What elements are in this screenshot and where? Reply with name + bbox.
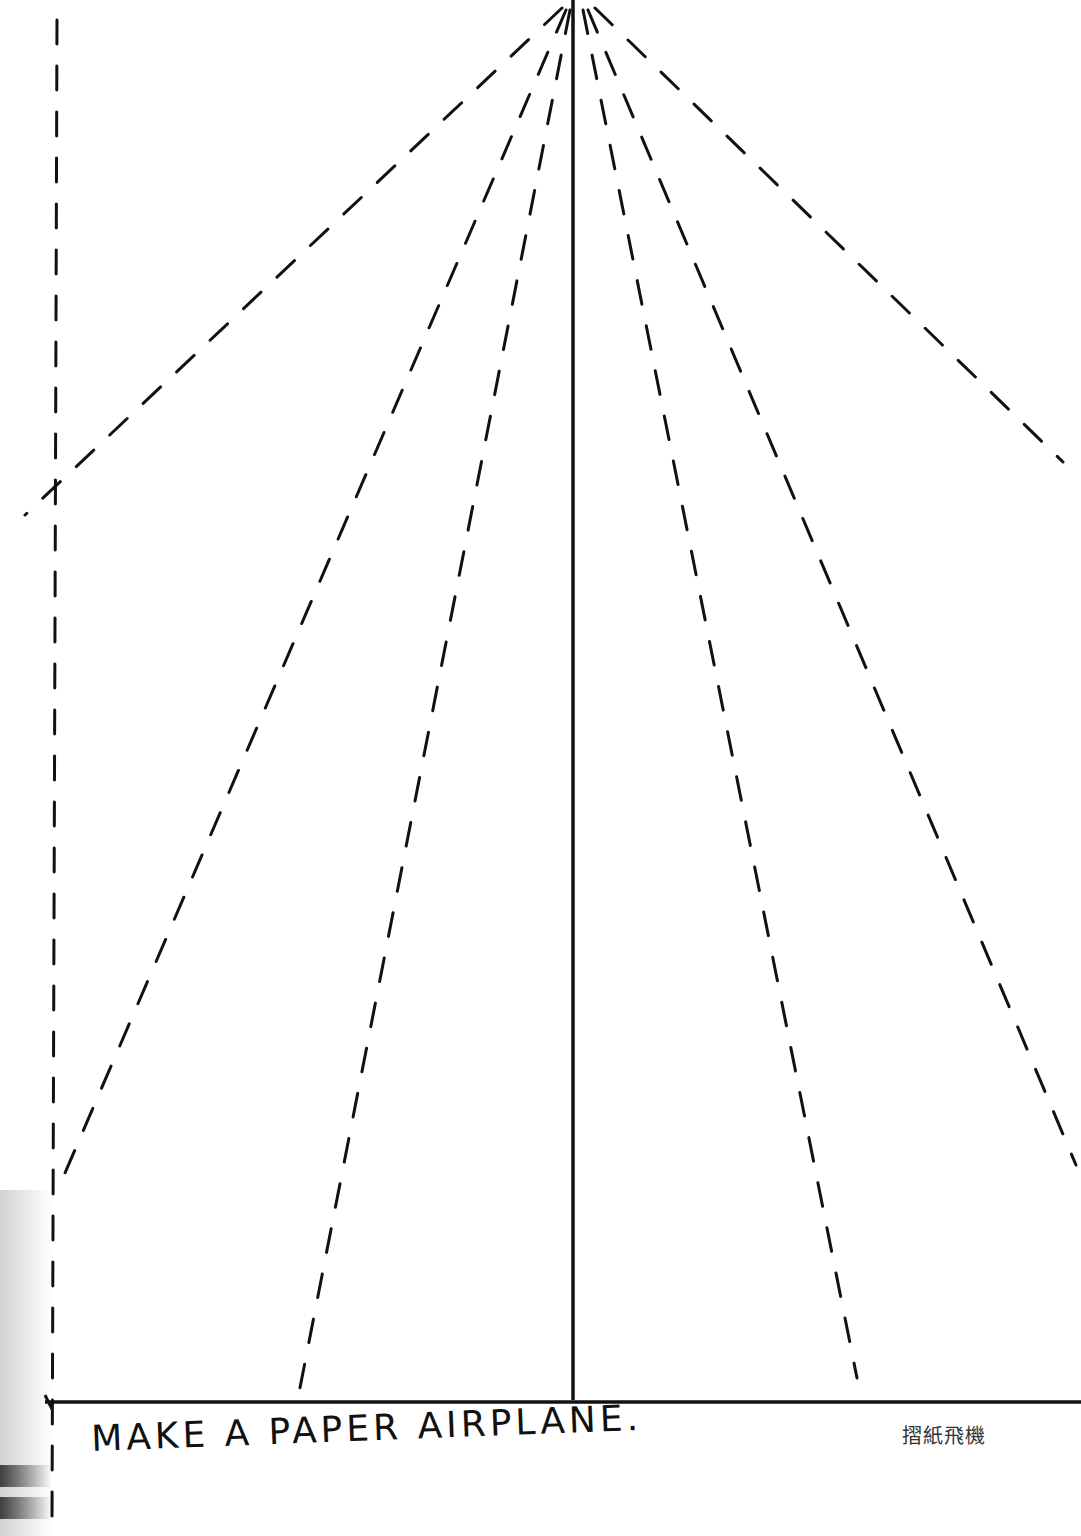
dashed-fold-lines [25,8,1076,1525]
right-wing-fold-mid [588,10,1076,1165]
right-wing-fold-outer [595,8,1063,462]
fold-diagram [0,0,1081,1536]
template-page: MAKE A PAPER AIRPLANE. 摺紙飛機 [0,0,1081,1536]
solid-fold-lines [45,0,1081,1402]
left-wing-fold-mid [62,10,566,1180]
left-wing-fold-outer [25,8,562,515]
left-margin-line [52,20,57,1525]
right-wing-fold-inner [583,10,857,1378]
left-wing-fold-inner [298,10,570,1398]
page-subtitle-chinese: 摺紙飛機 [902,1420,986,1449]
